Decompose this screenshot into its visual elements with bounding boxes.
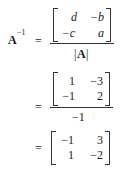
determinant-symbol: A (77, 48, 86, 60)
matrix-cell: 1 (58, 75, 75, 87)
matrix-cell: −3 (84, 75, 103, 87)
fraction-bar (50, 43, 114, 44)
matrix-cell: 2 (84, 90, 103, 102)
equals-sign: = (35, 101, 42, 113)
matrix-cell: −b (86, 11, 104, 23)
right-bracket (105, 72, 110, 106)
matrix-symbol-a: A (8, 34, 17, 46)
denominator: −1 (72, 111, 85, 123)
matrix-cell: −1 (55, 134, 74, 146)
inverse-superscript: −1 (17, 29, 26, 37)
equals-sign: = (35, 142, 42, 154)
equals-sign: = (35, 35, 42, 47)
matrix-cell: 3 (84, 134, 103, 146)
abs-bar-right: | (86, 48, 88, 60)
right-bracket (105, 131, 110, 165)
matrix-cell: d (60, 11, 77, 23)
matrix-cell: 1 (55, 149, 74, 161)
matrix-cell: −2 (84, 149, 103, 161)
right-bracket (106, 8, 111, 42)
matrix-cell: −1 (56, 90, 75, 102)
fraction-bar (50, 107, 113, 108)
matrix-cell: a (86, 27, 104, 39)
matrix-cell: −c (58, 27, 75, 39)
